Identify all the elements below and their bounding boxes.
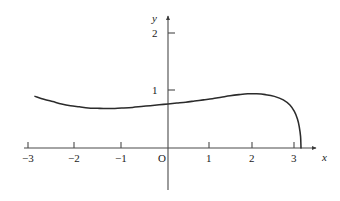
plot-canvas [0, 0, 340, 201]
x-tick-label-3: 3 [291, 153, 297, 164]
y-tick-label-1: 1 [152, 85, 158, 96]
function-graph-figure: −3 −2 −1 1 2 3 1 2 O y x [0, 0, 340, 201]
origin-label: O [158, 153, 166, 164]
y-tick-label-2: 2 [152, 28, 158, 39]
x-tick-label-2: 2 [249, 153, 255, 164]
y-axis-ticks [168, 33, 175, 90]
x-tick-label--1: −1 [115, 153, 127, 164]
y-axis-label: y [152, 13, 157, 24]
x-axis-label: x [322, 152, 327, 163]
x-axis-ticks [28, 142, 294, 148]
x-tick-label--3: −3 [22, 153, 34, 164]
x-tick-label-1: 1 [206, 153, 212, 164]
x-tick-label--2: −2 [68, 153, 80, 164]
